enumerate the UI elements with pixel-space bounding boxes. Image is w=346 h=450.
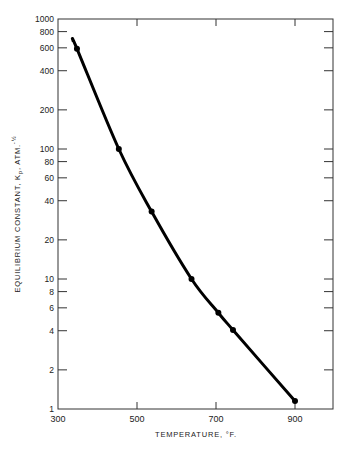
kp-vs-temperature-chart: 1246810204060801002004006008001000 30050…: [0, 0, 346, 450]
y-tick-label: 4: [49, 326, 54, 336]
y-tick-label: 100: [40, 144, 54, 154]
plot-frame: [58, 19, 333, 409]
data-point: [292, 398, 298, 404]
x-tick-label: 900: [287, 414, 302, 424]
kp-curve: [72, 38, 295, 401]
data-point: [230, 327, 236, 333]
y-axis-title-tail: , ATM.: [13, 144, 22, 170]
y-tick-label: 10: [45, 274, 55, 284]
y-tick-label: 800: [40, 27, 54, 37]
y-tick-label: 600: [40, 43, 54, 53]
y-axis-title-main: EQUILIBRIUM CONSTANT, K: [13, 174, 22, 292]
y-tick-label: 400: [40, 66, 54, 76]
y-axis-title: EQUILIBRIUM CONSTANT, Kp, ATM.-½: [11, 136, 23, 293]
data-point: [215, 310, 221, 316]
data-point: [149, 209, 155, 215]
y-axis-title-exp: -½: [11, 136, 17, 145]
y-tick-label: 1000: [35, 14, 54, 24]
y-tick-label: 1: [49, 404, 54, 414]
x-tick-label: 700: [208, 414, 223, 424]
data-point: [74, 46, 80, 52]
y-tick-label: 8: [49, 287, 54, 297]
y-axis-ticks: 1246810204060801002004006008001000: [35, 14, 333, 414]
x-axis-title: TEMPERATURE, °F.: [155, 430, 237, 439]
y-tick-label: 60: [45, 173, 55, 183]
x-tick-label: 300: [50, 414, 65, 424]
data-point: [116, 146, 122, 152]
y-tick-label: 20: [45, 235, 55, 245]
y-tick-label: 6: [49, 303, 54, 313]
x-tick-label: 500: [129, 414, 144, 424]
y-tick-label: 80: [45, 157, 55, 167]
y-tick-label: 40: [45, 196, 55, 206]
y-tick-label: 2: [49, 365, 54, 375]
y-tick-label: 200: [40, 105, 54, 115]
data-point-markers: [74, 46, 298, 404]
data-point: [189, 276, 195, 282]
svg-text:EQUILIBRIUM CONSTANT, Kp, ATM.: EQUILIBRIUM CONSTANT, Kp, ATM.-½: [11, 136, 23, 293]
